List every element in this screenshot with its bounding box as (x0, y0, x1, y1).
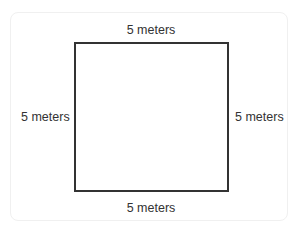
right-side-label: 5 meters (235, 110, 284, 124)
top-side-label: 5 meters (0, 23, 302, 37)
square-shape (74, 42, 229, 192)
left-side-label: 5 meters (21, 110, 70, 124)
bottom-side-label: 5 meters (0, 201, 302, 215)
